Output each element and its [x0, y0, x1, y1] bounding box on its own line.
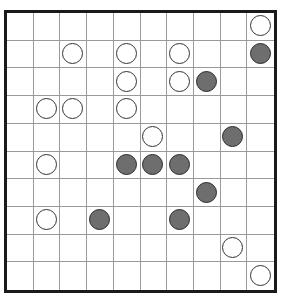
board-cell-r1-c3[interactable]: [87, 41, 114, 69]
board-cell-r3-c0[interactable]: [7, 96, 34, 124]
board-cell-r5-c6[interactable]: [167, 152, 194, 180]
board-cell-r7-c3[interactable]: [87, 207, 114, 235]
board-cell-r2-c9[interactable]: [247, 68, 274, 96]
board-cell-r1-c5[interactable]: [141, 41, 168, 69]
board-cell-r5-c1[interactable]: [34, 152, 61, 180]
board-cell-r3-c9[interactable]: [247, 96, 274, 124]
board-cell-r8-c4[interactable]: [114, 235, 141, 263]
board-cell-r4-c6[interactable]: [167, 124, 194, 152]
board-cell-r2-c7[interactable]: [194, 68, 221, 96]
board-cell-r0-c0[interactable]: [7, 13, 34, 41]
board-cell-r3-c8[interactable]: [221, 96, 248, 124]
board-cell-r6-c8[interactable]: [221, 179, 248, 207]
board-cell-r6-c6[interactable]: [167, 179, 194, 207]
board-cell-r7-c6[interactable]: [167, 207, 194, 235]
board-cell-r0-c6[interactable]: [167, 13, 194, 41]
board-cell-r1-c8[interactable]: [221, 41, 248, 69]
board-cell-r3-c7[interactable]: [194, 96, 221, 124]
board-cell-r2-c2[interactable]: [60, 68, 87, 96]
board-cell-r9-c8[interactable]: [221, 262, 248, 290]
board-cell-r5-c9[interactable]: [247, 152, 274, 180]
board-cell-r6-c0[interactable]: [7, 179, 34, 207]
board-cell-r4-c0[interactable]: [7, 124, 34, 152]
board-cell-r4-c4[interactable]: [114, 124, 141, 152]
board-cell-r9-c9[interactable]: [247, 262, 274, 290]
board-cell-r5-c4[interactable]: [114, 152, 141, 180]
board-cell-r1-c4[interactable]: [114, 41, 141, 69]
board-cell-r7-c9[interactable]: [247, 207, 274, 235]
board-cell-r8-c0[interactable]: [7, 235, 34, 263]
board-cell-r7-c0[interactable]: [7, 207, 34, 235]
board-cell-r0-c5[interactable]: [141, 13, 168, 41]
board-cell-r8-c5[interactable]: [141, 235, 168, 263]
board-cell-r7-c7[interactable]: [194, 207, 221, 235]
board-cell-r9-c0[interactable]: [7, 262, 34, 290]
board-cell-r5-c3[interactable]: [87, 152, 114, 180]
board-cell-r8-c1[interactable]: [34, 235, 61, 263]
board-cell-r5-c0[interactable]: [7, 152, 34, 180]
board-cell-r1-c9[interactable]: [247, 41, 274, 69]
board-cell-r3-c4[interactable]: [114, 96, 141, 124]
board-cell-r7-c4[interactable]: [114, 207, 141, 235]
board-cell-r3-c2[interactable]: [60, 96, 87, 124]
board-cell-r9-c1[interactable]: [34, 262, 61, 290]
board-cell-r4-c3[interactable]: [87, 124, 114, 152]
board-cell-r2-c8[interactable]: [221, 68, 248, 96]
board-cell-r6-c5[interactable]: [141, 179, 168, 207]
board-cell-r0-c4[interactable]: [114, 13, 141, 41]
board-cell-r8-c6[interactable]: [167, 235, 194, 263]
board-cell-r3-c6[interactable]: [167, 96, 194, 124]
board-cell-r7-c8[interactable]: [221, 207, 248, 235]
board-cell-r5-c2[interactable]: [60, 152, 87, 180]
board-cell-r6-c7[interactable]: [194, 179, 221, 207]
board-cell-r5-c8[interactable]: [221, 152, 248, 180]
board-cell-r2-c3[interactable]: [87, 68, 114, 96]
board-cell-r0-c9[interactable]: [247, 13, 274, 41]
board-cell-r2-c1[interactable]: [34, 68, 61, 96]
board-cell-r0-c3[interactable]: [87, 13, 114, 41]
board-cell-r9-c5[interactable]: [141, 262, 168, 290]
board-cell-r4-c8[interactable]: [221, 124, 248, 152]
board-cell-r0-c2[interactable]: [60, 13, 87, 41]
board-cell-r8-c8[interactable]: [221, 235, 248, 263]
board-cell-r5-c7[interactable]: [194, 152, 221, 180]
board-cell-r6-c4[interactable]: [114, 179, 141, 207]
board-cell-r8-c2[interactable]: [60, 235, 87, 263]
board-cell-r1-c0[interactable]: [7, 41, 34, 69]
board-cell-r9-c7[interactable]: [194, 262, 221, 290]
board-cell-r4-c9[interactable]: [247, 124, 274, 152]
board-cell-r7-c1[interactable]: [34, 207, 61, 235]
board-cell-r0-c8[interactable]: [221, 13, 248, 41]
board-cell-r8-c7[interactable]: [194, 235, 221, 263]
board-cell-r9-c6[interactable]: [167, 262, 194, 290]
board-cell-r1-c6[interactable]: [167, 41, 194, 69]
board-cell-r1-c7[interactable]: [194, 41, 221, 69]
board-cell-r6-c1[interactable]: [34, 179, 61, 207]
board-cell-r4-c7[interactable]: [194, 124, 221, 152]
board-cell-r8-c3[interactable]: [87, 235, 114, 263]
board-cell-r6-c3[interactable]: [87, 179, 114, 207]
board-cell-r4-c5[interactable]: [141, 124, 168, 152]
board-cell-r7-c5[interactable]: [141, 207, 168, 235]
board-cell-r2-c4[interactable]: [114, 68, 141, 96]
board-cell-r2-c5[interactable]: [141, 68, 168, 96]
board-cell-r6-c9[interactable]: [247, 179, 274, 207]
board-cell-r3-c5[interactable]: [141, 96, 168, 124]
board-cell-r0-c1[interactable]: [34, 13, 61, 41]
board-cell-r4-c2[interactable]: [60, 124, 87, 152]
board-cell-r5-c5[interactable]: [141, 152, 168, 180]
board-cell-r1-c2[interactable]: [60, 41, 87, 69]
board-cell-r1-c1[interactable]: [34, 41, 61, 69]
board-cell-r3-c3[interactable]: [87, 96, 114, 124]
board-cell-r9-c4[interactable]: [114, 262, 141, 290]
board-cell-r7-c2[interactable]: [60, 207, 87, 235]
board-cell-r8-c9[interactable]: [247, 235, 274, 263]
board-cell-r6-c2[interactable]: [60, 179, 87, 207]
board-cell-r9-c3[interactable]: [87, 262, 114, 290]
board-cell-r2-c6[interactable]: [167, 68, 194, 96]
board-cell-r0-c7[interactable]: [194, 13, 221, 41]
board-cell-r4-c1[interactable]: [34, 124, 61, 152]
board-cell-r2-c0[interactable]: [7, 68, 34, 96]
board-cell-r9-c2[interactable]: [60, 262, 87, 290]
board-cell-r3-c1[interactable]: [34, 96, 61, 124]
